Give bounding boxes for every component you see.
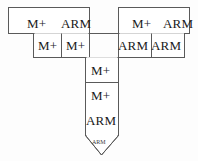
cell-label-r2c0: M+ (91, 64, 110, 77)
cell-label-r1c3: ARM (151, 39, 181, 52)
cell-label-r0c1: ARM (61, 17, 91, 30)
cell-label-r1c1: M+ (66, 39, 85, 52)
cell-label-r4c0: ARM (86, 114, 116, 127)
cell-label-arrow-tip: ARM (92, 139, 106, 145)
cell-label-r0c2: M+ (132, 17, 151, 30)
diagram-canvas: M+ ARM M+ ARM M+ M+ ARM ARM M+ M+ ARM AR… (0, 0, 198, 161)
cell-label-r0c3: ARM (163, 17, 193, 30)
cell-label-r1c2: ARM (118, 39, 148, 52)
cell-label-r3c0: M+ (91, 89, 110, 102)
cell-label-r0c0: M+ (27, 17, 46, 30)
cell-label-r1c0: M+ (38, 39, 57, 52)
